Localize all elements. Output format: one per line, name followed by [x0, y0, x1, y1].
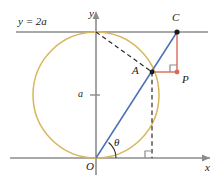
label-y-axis: y: [89, 8, 94, 19]
geometry-figure: y = 2a y x a O C A P θ: [0, 0, 224, 183]
point-c: [174, 29, 179, 34]
label-x-axis: x: [205, 162, 210, 173]
figure-canvas: [0, 0, 224, 183]
label-point-o: O: [86, 161, 94, 172]
label-angle-theta: θ: [114, 137, 119, 148]
point-p: [175, 70, 180, 75]
right-angle-marker-at-foot: [145, 151, 152, 158]
label-point-a: A: [132, 65, 139, 76]
ray-from-origin-to-c: [96, 32, 177, 158]
label-point-c: C: [172, 12, 179, 23]
point-a: [150, 70, 155, 75]
label-point-p: P: [182, 74, 189, 85]
label-tick-a: a: [78, 89, 83, 99]
label-line-equation: y = 2a: [18, 16, 47, 27]
